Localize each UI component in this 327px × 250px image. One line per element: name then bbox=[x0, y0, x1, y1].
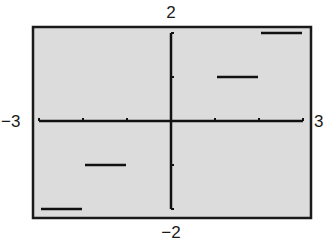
graph-screen bbox=[0, 0, 327, 250]
